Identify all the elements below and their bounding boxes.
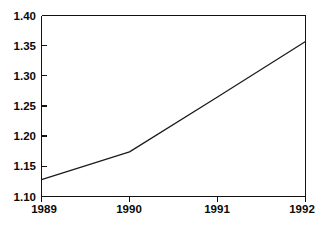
x-axis-label-1992: 1992	[289, 203, 315, 215]
x-axis-label-1989: 1989	[31, 203, 57, 215]
y-axis-label-1-25: 1.25	[14, 100, 37, 112]
y-axis-label-1-15: 1.15	[14, 160, 37, 172]
x-axis-label-1991: 1991	[204, 203, 230, 215]
chart-background	[0, 0, 331, 226]
chart-canvas: 1.10 1.15 1.20 1.25 1.30 1.35 1.40 1989 …	[0, 0, 331, 226]
y-axis-label-1-35: 1.35	[14, 40, 37, 52]
y-axis-label-1-40: 1.40	[14, 10, 36, 22]
y-axis-label-1-20: 1.20	[14, 130, 36, 142]
y-axis-label-1-10: 1.10	[14, 191, 36, 203]
line-chart-figure: 1.10 1.15 1.20 1.25 1.30 1.35 1.40 1989 …	[0, 0, 331, 226]
x-axis-label-1990: 1990	[116, 203, 142, 215]
y-axis-label-1-30: 1.30	[14, 70, 36, 82]
